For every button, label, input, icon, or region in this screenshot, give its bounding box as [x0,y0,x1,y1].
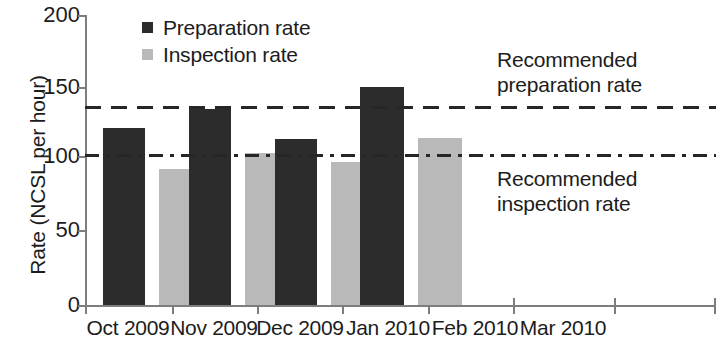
x-tick-mark-7 [714,298,716,314]
legend-item-inspection-rate: Inspection rate [142,41,310,68]
reference-line-recommended-preparation-rate [85,106,716,109]
bar-chart-figure: Rate (NCSL per hour) 200 150 100 50 0 [0,0,722,349]
reference-line-recommended-inspection-rate [85,154,716,157]
legend-swatch-icon-inspection [142,49,153,60]
x-axis-line [85,305,716,307]
y-tick-mark-150 [78,87,87,89]
legend-item-preparation-rate: Preparation rate [142,14,310,41]
x-tick-mark-0 [85,298,87,314]
legend-label-inspection-rate: Inspection rate [163,44,298,65]
x-tick-label-jan-2010: Jan 2010 [338,316,438,340]
legend-label-preparation-rate: Preparation rate [163,17,310,38]
x-tick-mark-6 [614,298,616,314]
y-axis-line [85,15,87,306]
y-tick-mark-50 [78,230,87,232]
y-tick-label-100: 100 [36,145,80,167]
x-tick-mark-5 [513,298,515,314]
annotation-recommended-inspection-rate: Recommended inspection rate [497,166,637,216]
y-tick-label-150: 150 [36,76,80,98]
x-tick-label-feb-2010: Feb 2010 [425,316,525,340]
annotation-recommended-preparation-rate: Recommended preparation rate [497,47,642,97]
bar-inspection-jan-2010 [418,138,462,305]
x-tick-label-nov-2009: Nov 2009 [164,316,264,340]
y-tick-label-200: 200 [36,4,80,26]
y-tick-label-0: 0 [36,294,80,316]
y-tick-mark-200 [78,15,87,17]
y-axis-tick-labels: 200 150 100 50 0 [32,0,80,349]
x-tick-label-mar-2010: Mar 2010 [513,316,613,340]
x-tick-label-dec-2009: Dec 2009 [250,316,350,340]
bar-preparation-nov-2009 [189,109,231,305]
legend-swatch-icon-preparation [142,22,153,33]
y-tick-label-50: 50 [36,219,80,241]
x-tick-label-oct-2009: Oct 2009 [78,316,178,340]
bar-preparation-dec-2009 [275,139,317,305]
bar-preparation-jan-2010 [360,87,404,305]
chart-legend: Preparation rate Inspection rate [142,14,310,68]
